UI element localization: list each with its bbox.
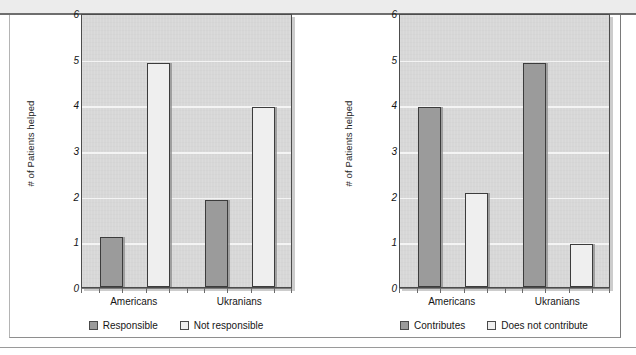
x-axis-tick-mark xyxy=(487,288,488,293)
y-axis-tick-label: 1 xyxy=(57,237,79,248)
y-axis-tick-label: 6 xyxy=(57,9,79,20)
y-axis-tick-label: 5 xyxy=(57,54,79,65)
legend-swatch-icon xyxy=(400,321,409,330)
legend-swatch-icon xyxy=(89,321,98,330)
gridline xyxy=(82,61,291,63)
chart-legend: ResponsibleNot responsible xyxy=(45,317,307,333)
bar xyxy=(147,63,170,287)
y-axis-tick-labels: 0123456 xyxy=(375,14,397,288)
x-axis-category-labels: AmericansUkranians xyxy=(399,296,610,312)
y-axis-title: # of Patients helped xyxy=(343,79,354,209)
x-axis-category-label: Americans xyxy=(110,296,157,307)
x-axis-tick-mark xyxy=(274,288,275,293)
legend-swatch-icon xyxy=(487,321,496,330)
contribution-chart-panel: # of Patients helped 0123456 AmericansUk… xyxy=(327,0,633,340)
plot-area xyxy=(399,14,610,288)
y-axis-title: # of Patients helped xyxy=(25,79,36,209)
legend-item: Does not contribute xyxy=(487,320,588,331)
x-axis-tick-mark xyxy=(545,288,546,293)
x-axis-tick-mark xyxy=(251,288,252,293)
bar xyxy=(100,237,123,287)
legend-item: Contributes xyxy=(400,320,465,331)
x-axis-tick-mark xyxy=(81,288,82,293)
figure-page: # of Patients helped 0123456 AmericansUk… xyxy=(0,0,636,355)
chart-legend: ContributesDoes not contribute xyxy=(363,317,625,333)
y-axis-tick-label: 6 xyxy=(375,9,397,20)
legend-label: Not responsible xyxy=(194,320,263,331)
x-axis xyxy=(81,288,292,294)
x-axis-category-label: Americans xyxy=(428,296,475,307)
legend-label: Responsible xyxy=(103,320,158,331)
x-axis-tick-mark xyxy=(187,288,188,293)
x-axis-tick-mark xyxy=(417,288,418,293)
y-axis-tick-label: 2 xyxy=(57,191,79,202)
bar xyxy=(205,200,228,287)
x-axis-tick-mark xyxy=(291,288,292,293)
x-axis-tick-mark xyxy=(505,288,506,293)
y-axis-tick-label: 3 xyxy=(57,146,79,157)
x-axis-tick-mark xyxy=(440,288,441,293)
x-axis-category-label: Ukranians xyxy=(535,296,580,307)
plot-area xyxy=(81,14,292,288)
y-axis-tick-label: 3 xyxy=(375,146,397,157)
y-axis-tick-label: 2 xyxy=(375,191,397,202)
x-axis-tick-mark xyxy=(146,288,147,293)
y-axis-tick-label: 1 xyxy=(375,237,397,248)
x-axis-tick-mark xyxy=(609,288,610,293)
gridline xyxy=(400,61,609,63)
bar xyxy=(465,193,488,287)
legend-swatch-icon xyxy=(180,321,189,330)
x-axis-tick-mark xyxy=(122,288,123,293)
x-axis-tick-mark xyxy=(592,288,593,293)
y-axis-tick-label: 0 xyxy=(57,283,79,294)
bar xyxy=(523,63,546,287)
bar xyxy=(252,107,275,287)
legend-label: Contributes xyxy=(414,320,465,331)
x-axis-tick-mark xyxy=(522,288,523,293)
bar xyxy=(418,107,441,287)
x-axis-tick-mark xyxy=(99,288,100,293)
bar xyxy=(570,244,593,287)
legend-label: Does not contribute xyxy=(501,320,588,331)
bottom-rule xyxy=(0,347,636,348)
x-axis-tick-mark xyxy=(227,288,228,293)
x-axis-tick-mark xyxy=(204,288,205,293)
legend-item: Responsible xyxy=(89,320,158,331)
y-axis-tick-label: 0 xyxy=(375,283,397,294)
x-axis-tick-mark xyxy=(569,288,570,293)
responsibility-chart-panel: # of Patients helped 0123456 AmericansUk… xyxy=(9,0,315,340)
x-axis-tick-mark xyxy=(169,288,170,293)
x-axis-tick-mark xyxy=(464,288,465,293)
y-axis-tick-label: 4 xyxy=(57,100,79,111)
x-axis xyxy=(399,288,610,294)
y-axis-tick-labels: 0123456 xyxy=(57,14,79,288)
y-axis-tick-label: 5 xyxy=(375,54,397,65)
legend-item: Not responsible xyxy=(180,320,263,331)
x-axis-category-label: Ukranians xyxy=(217,296,262,307)
x-axis-tick-mark xyxy=(399,288,400,293)
x-axis-category-labels: AmericansUkranians xyxy=(81,296,292,312)
y-axis-tick-label: 4 xyxy=(375,100,397,111)
